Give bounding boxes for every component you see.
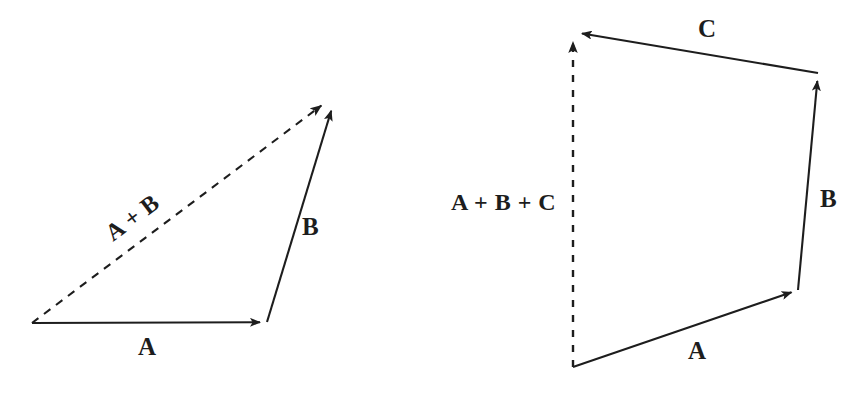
diagram-polygon-rule (573, 34, 818, 368)
vector-b-right-line (798, 81, 817, 290)
label-vector-a-right: A (688, 338, 706, 363)
vector-a-right-line (573, 292, 792, 367)
vector-a-plus-b-dashed-line (32, 106, 321, 323)
vector-b-left-line (267, 111, 331, 322)
label-vector-a-left: A (138, 334, 156, 359)
vector-diagram-canvas (0, 0, 852, 393)
label-vector-c-right: C (698, 16, 716, 41)
label-vector-b-left: B (302, 214, 319, 239)
label-vector-b-right: B (820, 186, 837, 211)
diagram-triangle-rule (32, 106, 331, 323)
vector-addition-figure: A B A + B A B C A + B + C (0, 0, 852, 393)
vector-a-left-line (32, 322, 260, 323)
label-vector-a-plus-b-plus-c: A + B + C (451, 190, 556, 214)
